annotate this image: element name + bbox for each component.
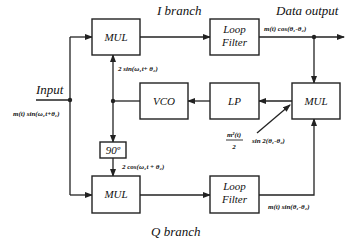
error-term: m²(t) 2 sin 2(θ₁-θ₂): [226, 131, 285, 151]
i-branch-label: I branch: [156, 3, 201, 18]
mul-bottom-block: MUL: [92, 176, 140, 213]
lf-bottom-label-2: Filter: [221, 193, 248, 205]
error-sin-term: sin 2(θ₁-θ₂): [251, 137, 285, 145]
loop-filter-top-block: Loop Filter: [210, 19, 259, 55]
lf-top-label-2: Filter: [221, 36, 248, 48]
error-denominator: 2: [231, 143, 236, 151]
q-output-label: m(t) sin(θ₁-θ₂): [268, 203, 310, 211]
input-junction: [68, 98, 72, 102]
mul-right-block: MUL: [292, 83, 340, 119]
error-pointer: [257, 105, 290, 133]
q-to-mul-right: [259, 119, 314, 195]
vco-sin-label: 2 sin(ω₁t+ θ₂): [117, 65, 158, 73]
lf-top-label-1: Loop: [222, 23, 246, 35]
vco-block: VCO: [140, 83, 188, 119]
lf-bottom-label-1: Loop: [222, 180, 246, 192]
vco-label: VCO: [153, 95, 175, 107]
input-signal-label: m(t) sin(ω₁t+θ₁): [13, 110, 60, 118]
mul-top-block: MUL: [92, 19, 140, 55]
loop-filter-bottom-block: Loop Filter: [210, 176, 259, 213]
costas-loop-diagram: MUL Loop Filter VCO LP MUL 90º MUL Loop …: [0, 0, 358, 246]
error-numerator: m²(t): [227, 131, 241, 139]
phase-shift-block: 90º: [100, 142, 126, 158]
mul-top-label: MUL: [103, 31, 127, 43]
i-output-label: m(t) cos(θ₁-θ₂): [264, 25, 306, 33]
mul-bottom-label: MUL: [103, 188, 127, 200]
phase-shift-label: 90º: [106, 144, 121, 156]
q-branch-label: Q branch: [151, 224, 200, 239]
input-label: Input: [35, 82, 64, 97]
vco-cos-label: 2 cos(ω₁t + θ₂): [121, 163, 164, 171]
data-output-label: Data output: [275, 3, 339, 18]
lp-label: LP: [227, 95, 241, 107]
lp-block: LP: [210, 83, 259, 119]
mul-right-label: MUL: [303, 95, 327, 107]
